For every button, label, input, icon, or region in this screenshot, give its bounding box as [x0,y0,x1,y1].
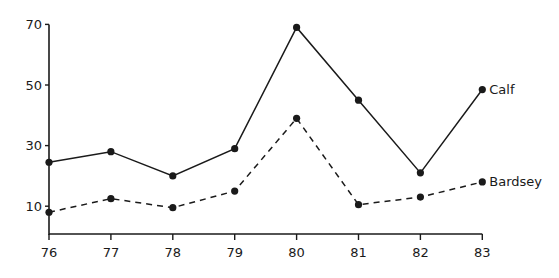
data-point-bardsey [417,194,424,201]
y-tick-label: 30 [25,138,42,153]
data-point-calf [45,159,52,166]
data-point-bardsey [45,209,52,216]
x-tick-label: 76 [41,245,58,260]
x-tick-label: 81 [350,245,367,260]
data-point-bardsey [231,187,238,194]
data-point-calf [169,172,176,179]
x-tick-label: 80 [288,245,305,260]
data-point-bardsey [355,201,362,208]
x-tick-label: 79 [226,245,243,260]
data-point-calf [417,169,424,176]
series-group [45,24,486,216]
data-point-bardsey [169,204,176,211]
y-tick-label: 70 [25,17,42,32]
data-point-bardsey [107,195,114,202]
data-point-calf [479,86,486,93]
y-tick-label: 50 [25,78,42,93]
x-tick-label: 82 [412,245,429,260]
data-point-calf [107,148,114,155]
x-tick-label: 78 [165,245,182,260]
data-point-calf [293,24,300,31]
series-label-bardsey: Bardsey [489,174,542,189]
data-point-calf [231,145,238,152]
y-tick-label: 10 [25,199,42,214]
series-line-calf [49,27,482,175]
data-point-calf [355,97,362,104]
x-tick-label: 83 [474,245,491,260]
x-tick-label: 77 [103,245,120,260]
data-point-bardsey [479,178,486,185]
data-point-bardsey [293,115,300,122]
series-label-calf: Calf [489,82,515,97]
line-chart: 103050707677787980818283CalfBardsey [0,0,559,278]
axes [45,24,482,240]
